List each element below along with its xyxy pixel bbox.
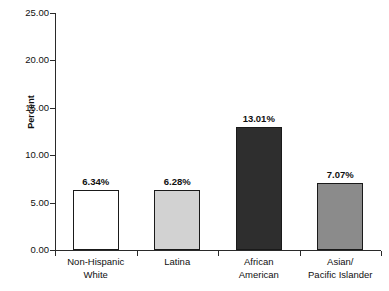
x-axis-category-label-line: White	[48, 269, 144, 282]
x-axis-tick-mark	[218, 251, 219, 256]
bar-chart: Percent 0.005.0010.0015.0020.0025.00 6.3…	[0, 0, 389, 291]
y-axis-tick-mark	[50, 60, 55, 61]
bar-group: 7.07%	[317, 13, 363, 250]
bar-value-label: 13.01%	[224, 113, 294, 124]
y-axis-tick-mark	[50, 203, 55, 204]
bar-value-label: 6.28%	[142, 176, 212, 187]
y-axis-tick-labels: 0.005.0010.0015.0020.0025.00	[9, 0, 49, 291]
y-axis-tick-label: 5.00	[11, 198, 49, 208]
bar-group: 6.28%	[154, 13, 200, 250]
y-axis-tick-mark	[50, 155, 55, 156]
bar[interactable]	[236, 127, 282, 250]
y-axis-tick-label: 0.00	[11, 245, 49, 255]
bar-group: 13.01%	[236, 13, 282, 250]
y-axis-tick-label: 15.00	[11, 103, 49, 113]
x-axis-tick-mark	[137, 251, 138, 256]
bar[interactable]	[317, 183, 363, 250]
x-axis-category-label-line: Asian/	[292, 256, 388, 269]
y-axis-tick-mark	[50, 13, 55, 14]
bar[interactable]	[73, 190, 119, 250]
bar-group: 6.34%	[73, 13, 119, 250]
x-axis-tick-mark	[300, 251, 301, 256]
plot-area: 6.34%6.28%13.01%7.07%	[55, 13, 381, 250]
y-axis-tick-label: 25.00	[11, 8, 49, 18]
x-axis-category-label: Asian/Pacific Islander	[292, 256, 388, 281]
x-axis-category-label-line: Pacific Islander	[292, 269, 388, 282]
y-axis-tick-mark	[50, 108, 55, 109]
x-axis-tick-mark	[55, 251, 56, 256]
bar-value-label: 7.07%	[305, 169, 375, 180]
bar-value-label: 6.34%	[61, 176, 131, 187]
x-axis-tick-mark	[381, 251, 382, 256]
bar[interactable]	[154, 190, 200, 250]
y-axis-tick-label: 10.00	[11, 150, 49, 160]
y-axis-tick-label: 20.00	[11, 55, 49, 65]
